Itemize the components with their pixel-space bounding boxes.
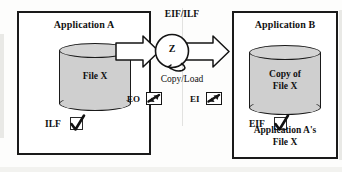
ei-row: EI [190, 92, 222, 105]
copy-of-file-x-cylinder-label: Copy of File X [249, 69, 321, 92]
eo-label: EO [127, 94, 140, 104]
application-b-footer: Application A's File X [234, 124, 336, 148]
diagram-canvas: Application A File X ILF EIF/ILF [0, 0, 342, 172]
copy-load-process-group: Z [115, 32, 230, 72]
copy-load-label: Copy/Load [146, 74, 218, 84]
checkmark-icon [70, 117, 83, 130]
eif-ilf-label: EIF/ILF [148, 9, 216, 19]
transaction-arrow-icon [206, 92, 222, 105]
footer-line-2: File X [234, 136, 336, 148]
copy-of-file-x-cylinder: Copy of File X [249, 45, 321, 115]
ilf-check-row: ILF [45, 117, 83, 130]
cylinder-label-line-2: File X [249, 80, 321, 92]
cylinder-bottom [59, 96, 131, 111]
ilf-label: ILF [45, 119, 61, 129]
transaction-arrow-icon [146, 92, 162, 105]
block-arrow-right-icon [186, 36, 229, 67]
eo-row: EO [127, 92, 162, 105]
scan-artifact-bottom [0, 167, 342, 172]
application-a-title: Application A [19, 19, 149, 30]
cylinder-top [249, 45, 321, 60]
file-x-cylinder-label: File X [59, 71, 131, 83]
application-b-box: Application B Copy of File X EIF Applica… [232, 11, 338, 159]
application-b-title: Application B [234, 19, 336, 30]
footer-line-1: Application A's [234, 124, 336, 136]
cylinder-label-line-1: Copy of [249, 69, 321, 81]
ei-label: EI [190, 94, 200, 104]
process-label-z: Z [156, 43, 188, 54]
block-arrow-right-icon [116, 36, 159, 67]
scan-artifact-left [0, 34, 4, 138]
